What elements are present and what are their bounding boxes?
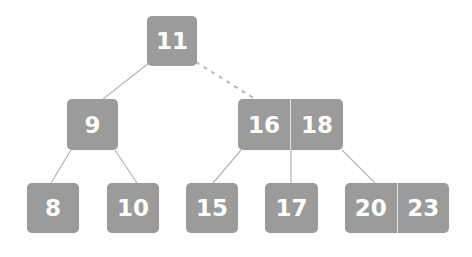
edge-n16_18-to-n15 bbox=[213, 150, 241, 183]
node-key: 9 bbox=[67, 99, 118, 150]
node-key: 15 bbox=[186, 183, 238, 233]
b-tree-diagram: 119161881015172023 bbox=[0, 0, 472, 257]
tree-node-n16_18: 1618 bbox=[238, 99, 343, 150]
node-key: 17 bbox=[265, 183, 318, 233]
tree-node-n10: 10 bbox=[107, 183, 159, 233]
tree-node-n15: 15 bbox=[186, 183, 238, 233]
edge-n16_18-to-n20_23 bbox=[342, 150, 375, 183]
tree-node-n8: 8 bbox=[27, 183, 79, 233]
node-key: 20 bbox=[345, 183, 397, 233]
edge-n9-to-n8 bbox=[51, 150, 71, 183]
node-key: 23 bbox=[397, 183, 450, 233]
edge-root-to-n16_18 bbox=[196, 62, 255, 99]
node-key: 18 bbox=[290, 99, 343, 150]
tree-node-n17: 17 bbox=[265, 183, 318, 233]
node-key: 8 bbox=[27, 183, 79, 233]
tree-node-n20_23: 2023 bbox=[345, 183, 449, 233]
tree-node-root: 11 bbox=[147, 16, 197, 66]
node-key: 11 bbox=[147, 16, 197, 66]
edge-root-to-n9 bbox=[103, 63, 149, 99]
node-key: 16 bbox=[238, 99, 290, 150]
edge-n9-to-n10 bbox=[115, 150, 137, 183]
node-key: 10 bbox=[107, 183, 159, 233]
tree-node-n9: 9 bbox=[67, 99, 118, 150]
